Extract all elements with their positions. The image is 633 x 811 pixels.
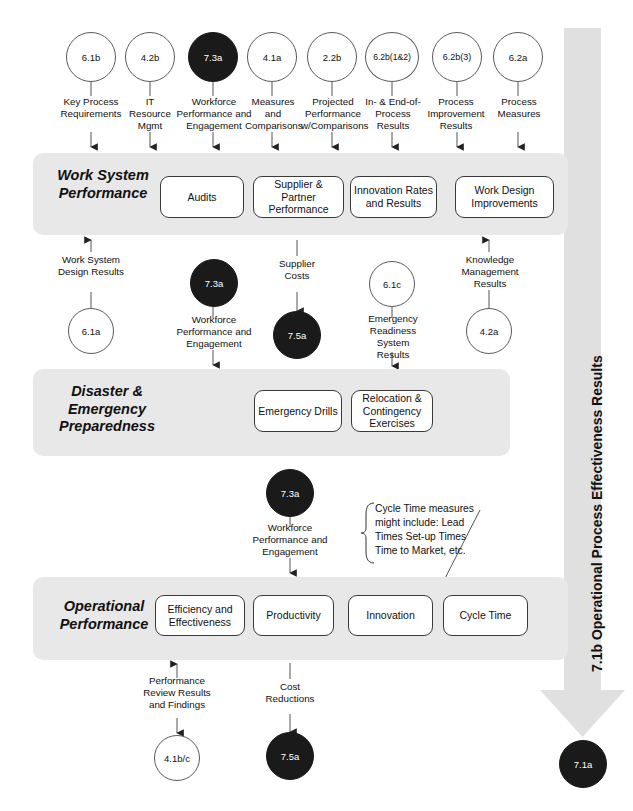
- circle-4-2b[interactable]: 4.2b: [125, 32, 175, 82]
- node-emergency-drills[interactable]: Emergency Drills: [254, 390, 342, 432]
- note-cycle-time: Cycle Time measures might include: Lead …: [360, 502, 490, 564]
- caption-it-resource-mgmt: IT Resource Mgmt: [124, 96, 176, 132]
- caption-workforce-performance-2: Workforce Performance and Engagement: [169, 314, 259, 350]
- circle-7-1a-label: 7.1a: [574, 759, 593, 770]
- caption-emergency-readiness-system-results: Emergency Readiness System Results: [360, 313, 426, 361]
- circle-6-2b-1-2-label: 6.2b(1&2): [373, 52, 411, 62]
- circle-7-3a-low-label: 7.3a: [281, 488, 300, 499]
- circle-7-3a-mid[interactable]: 7.3a: [190, 259, 238, 307]
- caption-work-system-design-results: Work System Design Results: [52, 254, 130, 278]
- circle-6-1c[interactable]: 6.1c: [369, 261, 415, 307]
- circle-7-5a-bottom[interactable]: 7.5a: [266, 732, 314, 780]
- circle-4-2b-label: 4.2b: [141, 52, 160, 63]
- caption-workforce-performance-3: Workforce Performance and Engagement: [245, 522, 335, 558]
- caption-performance-review-results-and-findings: Performance Review Results and Findings: [140, 675, 214, 711]
- node-audits-label: Audits: [187, 191, 216, 204]
- node-work-design-improvements[interactable]: Work Design Improvements: [455, 176, 554, 218]
- node-efficiency-and-effectiveness-label: Efficiency and Effectiveness: [159, 603, 241, 628]
- circle-4-1b-c[interactable]: 4.1b/c: [154, 735, 200, 781]
- circle-6-2a-label: 6.2a: [509, 52, 528, 63]
- node-relocation-contingency-exercises-label: Relocation & Contingency Exercises: [355, 392, 429, 430]
- circle-7-3a-low[interactable]: 7.3a: [266, 469, 314, 517]
- circle-7-5a-mid-label: 7.5a: [288, 330, 307, 341]
- circle-7-3a-top-label: 7.3a: [204, 52, 223, 63]
- circle-6-1b[interactable]: 6.1b: [66, 32, 116, 82]
- circle-6-2b-3-label: 6.2b(3): [443, 52, 472, 62]
- circle-6-2b-1-2[interactable]: 6.2b(1&2): [365, 32, 419, 82]
- node-work-design-improvements-label: Work Design Improvements: [459, 184, 550, 209]
- note-line-4: Time to Market, etc.: [375, 544, 490, 558]
- circle-6-2b-3[interactable]: 6.2b(3): [432, 32, 482, 82]
- node-innovation-rates-and-results[interactable]: Innovation Rates and Results: [350, 176, 437, 218]
- node-supplier-partner-performance[interactable]: Supplier & Partner Performance: [253, 176, 344, 218]
- node-innovation-label: Innovation: [366, 609, 414, 622]
- caption-cost-reductions: Cost Reductions: [258, 681, 322, 705]
- circle-4-2a-label: 4.2a: [480, 326, 499, 337]
- note-line-3: Times Set-up Times: [375, 530, 490, 544]
- circle-6-1b-label: 6.1b: [82, 52, 101, 63]
- note-line-2: might include: Lead: [375, 516, 490, 530]
- node-innovation[interactable]: Innovation: [348, 595, 433, 636]
- note-line-1: Cycle Time measures: [375, 502, 490, 516]
- circle-7-5a-bottom-label: 7.5a: [281, 751, 300, 762]
- node-efficiency-and-effectiveness[interactable]: Efficiency and Effectiveness: [155, 595, 245, 636]
- caption-in-end-of-process-results: In- & End-of-Process Results: [362, 96, 424, 132]
- circle-6-1a[interactable]: 6.1a: [68, 308, 114, 354]
- band-disaster-emergency-label: Disaster & Emergency Preparedness: [48, 383, 166, 436]
- circle-6-1a-label: 6.1a: [82, 326, 101, 337]
- circle-2-2b[interactable]: 2.2b: [307, 32, 357, 82]
- circle-4-1a[interactable]: 4.1a: [247, 32, 297, 82]
- node-supplier-partner-performance-label: Supplier & Partner Performance: [257, 178, 340, 216]
- caption-measures-and-comparisons: Measures and Comparisons: [245, 96, 301, 132]
- caption-knowledge-management-results: Knowledge Management Results: [455, 254, 525, 290]
- circle-7-3a-top[interactable]: 7.3a: [188, 32, 238, 82]
- node-productivity-label: Productivity: [266, 609, 320, 622]
- node-emergency-drills-label: Emergency Drills: [258, 405, 337, 418]
- circle-4-1b-c-label: 4.1b/c: [164, 753, 190, 764]
- circle-6-2a[interactable]: 6.2a: [493, 32, 543, 82]
- band-work-system-label: Work System Performance: [48, 167, 158, 202]
- caption-process-improvement-results: Process Improvement Results: [420, 96, 492, 132]
- circle-4-1a-label: 4.1a: [263, 52, 282, 63]
- circle-7-1a[interactable]: 7.1a: [559, 740, 607, 788]
- circle-2-2b-label: 2.2b: [323, 52, 342, 63]
- circle-6-1c-label: 6.1c: [383, 279, 401, 290]
- node-audits[interactable]: Audits: [160, 176, 244, 218]
- caption-key-process-requirements: Key Process Requirements: [54, 96, 128, 120]
- circle-7-5a-mid[interactable]: 7.5a: [273, 311, 321, 359]
- diagram-canvas: Work System Performance Disaster & Emerg…: [0, 0, 633, 811]
- node-relocation-contingency-exercises[interactable]: Relocation & Contingency Exercises: [351, 390, 433, 432]
- node-innovation-rates-and-results-label: Innovation Rates and Results: [354, 184, 433, 209]
- band-operational-label: Operational Performance: [48, 598, 160, 633]
- circle-4-2a[interactable]: 4.2a: [466, 308, 512, 354]
- caption-projected-performance: Projected Performance w/Comparisons: [301, 96, 365, 132]
- vertical-arrow-label: 7.1b Operational Process Effectiveness R…: [589, 355, 605, 672]
- node-cycle-time[interactable]: Cycle Time: [443, 595, 528, 636]
- node-cycle-time-label: Cycle Time: [460, 609, 512, 622]
- circle-7-3a-mid-label: 7.3a: [205, 278, 224, 289]
- caption-supplier-costs: Supplier Costs: [268, 258, 326, 282]
- node-productivity[interactable]: Productivity: [253, 595, 334, 636]
- caption-process-measures: Process Measures: [492, 96, 546, 120]
- note-cycle-time-text: Cycle Time measures might include: Lead …: [375, 502, 490, 558]
